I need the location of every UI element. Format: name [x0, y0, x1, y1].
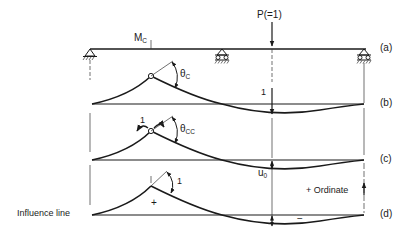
deflected-shape-left-b [92, 76, 151, 104]
theta-cc-label: θCC [180, 123, 195, 135]
pin-support [83, 49, 97, 60]
panel-label-a: (a) [380, 42, 392, 53]
reference-lines [90, 49, 364, 222]
roller-support-middle [215, 49, 229, 64]
deflected-shape-right-b [151, 76, 364, 113]
panel-d: 1 + − Influence line + Ordinate (d) [17, 171, 392, 226]
deflected-shape-left-c [92, 131, 151, 160]
theta-c-label: θC [180, 68, 191, 80]
rotation-arc-theta-c [172, 62, 177, 88]
panel-c: 1 θCC u0 (c) [92, 115, 392, 179]
panel-label-d: (d) [380, 208, 392, 219]
moment-label: MC [134, 32, 147, 44]
unit-couple-left-arrow [137, 126, 148, 131]
unit-moment-label: 1 [140, 115, 145, 125]
influence-line-left [92, 186, 151, 215]
unit-load-label: 1 [261, 87, 266, 97]
panel-label-b: (b) [380, 97, 392, 108]
panel-a: MC P(=1) (a) [83, 9, 392, 64]
influence-line-label: Influence line [17, 208, 70, 218]
roller-support-right [357, 49, 371, 64]
load-label: P(=1) [257, 9, 282, 20]
influence-line-diagram: MC P(=1) (a) θC 1 (b) 1 [0, 0, 405, 238]
panel-label-c: (c) [380, 153, 392, 164]
positive-area-sign: + [151, 197, 157, 208]
deflected-shape-right-c [151, 131, 364, 169]
unit-rotation-arc [167, 172, 173, 193]
rotation-arc-theta-cc [172, 117, 177, 143]
negative-area-sign: − [297, 213, 303, 224]
tangent-line [151, 171, 167, 186]
unit-rotation-label: 1 [177, 176, 182, 186]
tangent-line [151, 116, 173, 131]
panel-b: θC 1 (b) [92, 61, 392, 114]
ordinate-label: + Ordinate [306, 185, 348, 195]
tangent-line [151, 61, 173, 76]
unit-couple-right-arrow [154, 124, 164, 128]
